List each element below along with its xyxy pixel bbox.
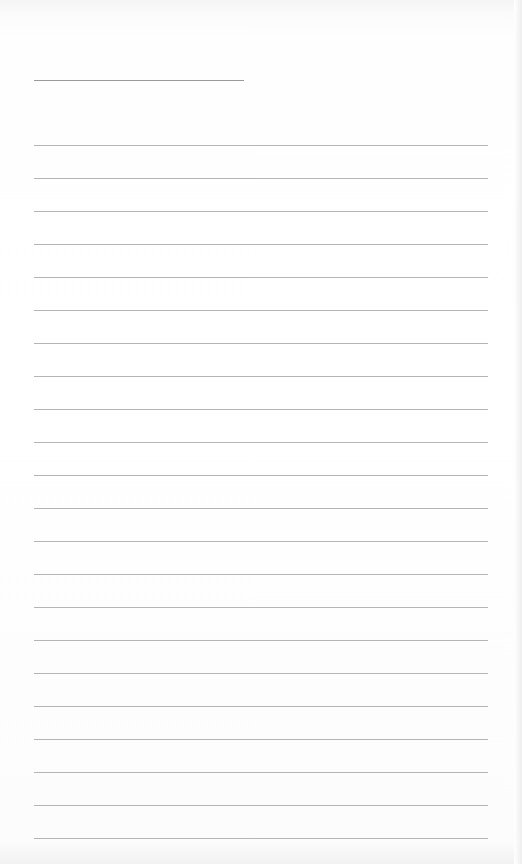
ruled-line: [34, 475, 488, 476]
ruled-line: [34, 706, 488, 707]
title-line: [34, 80, 244, 81]
ruled-line: [34, 244, 488, 245]
ruled-line: [34, 409, 488, 410]
ruled-line: [34, 574, 488, 575]
ruled-line: [34, 277, 488, 278]
ruled-line: [34, 310, 488, 311]
ruled-line: [34, 442, 488, 443]
paper-edge: [514, 0, 522, 864]
paper-sheet: [0, 0, 522, 864]
ruled-line: [34, 541, 488, 542]
ruled-line: [34, 772, 488, 773]
ruled-line: [34, 145, 488, 146]
ruled-line: [34, 838, 488, 839]
ruled-line: [34, 211, 488, 212]
ruled-line: [34, 640, 488, 641]
ruled-line: [34, 178, 488, 179]
ruled-line: [34, 607, 488, 608]
ruled-line: [34, 508, 488, 509]
ruled-line: [34, 376, 488, 377]
ruled-line: [34, 673, 488, 674]
ruled-line: [34, 739, 488, 740]
ruled-line: [34, 805, 488, 806]
ruled-line: [34, 343, 488, 344]
